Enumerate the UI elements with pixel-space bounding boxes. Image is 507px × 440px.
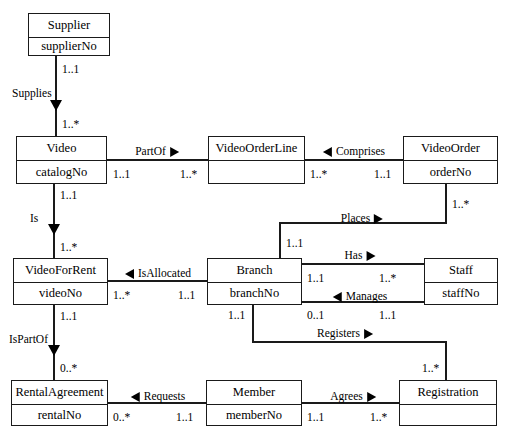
relationship-label-comprises: Comprises [323, 146, 385, 158]
relationship-label-is: Is [30, 213, 38, 225]
multiplicity-member-requests: 1..1 [176, 412, 193, 424]
entity-attribute: supplierNo [29, 38, 109, 55]
relationship-label-registers: Registers [317, 328, 373, 340]
entity-video[interactable]: Video catalogNo [16, 136, 107, 184]
entity-name: VideoForRent [14, 259, 107, 283]
relationship-label-text: Supplies [12, 88, 52, 100]
multiplicity-member-agrees: 1..1 [307, 412, 324, 424]
entity-attribute: orderNo [404, 161, 497, 183]
entity-name: VideoOrderLine [209, 137, 304, 161]
multiplicity-videoorderline-partof: 1..* [180, 169, 197, 181]
entity-attribute [400, 405, 496, 425]
multiplicity-staff-has: 1..* [379, 273, 396, 285]
entity-name: Member [207, 381, 301, 405]
triangle-left-icon [323, 147, 332, 157]
connector-registers [253, 305, 446, 380]
relationship-label-isallocated: IsAllocated [125, 268, 191, 280]
relationship-label-ispartof: IsPartOf [9, 334, 48, 346]
relationship-label-requests: Requests [131, 391, 186, 403]
relationship-label-has: Has [345, 250, 376, 262]
multiplicity-videoforrent-is: 1..* [60, 242, 77, 254]
entity-videoorderline[interactable]: VideoOrderLine [208, 136, 305, 184]
entity-member[interactable]: Member memberNo [206, 380, 302, 426]
relationship-label-text: PartOf [135, 146, 166, 158]
multiplicity-branch-registers: 1..1 [228, 310, 245, 322]
multiplicity-videoorder-places: 1..* [452, 199, 469, 211]
multiplicity-video-supplies: 1..* [62, 119, 79, 131]
entity-attribute [209, 161, 304, 183]
multiplicity-branch-places: 1..1 [286, 238, 303, 250]
entity-videoforrent[interactable]: VideoForRent videoNo [13, 258, 108, 305]
relationship-label-supplies: Supplies [12, 88, 52, 100]
entity-attribute: catalogNo [17, 161, 106, 183]
entity-name: RentalAgreement [12, 381, 107, 405]
multiplicity-branch-has: 1..1 [307, 273, 324, 285]
relationship-label-partof: PartOf [135, 146, 179, 158]
relationship-label-text: Has [345, 250, 363, 262]
relationship-label-text: IsPartOf [9, 334, 48, 346]
multiplicity-branch-isallocated: 1..1 [178, 290, 195, 302]
relationship-label-text: Registers [317, 328, 360, 340]
entity-attribute: memberNo [207, 405, 301, 425]
multiplicity-staff-manages: 1..1 [379, 310, 396, 322]
multiplicity-registration-registers: 1..* [422, 363, 439, 375]
entity-name: Staff [425, 259, 497, 283]
multiplicity-video-is: 1..1 [60, 190, 77, 202]
triangle-left-icon [333, 292, 342, 302]
triangle-right-icon [366, 251, 375, 261]
triangle-left-icon [125, 269, 134, 279]
entity-name: Video [17, 137, 106, 161]
relationship-label-text: Places [341, 213, 370, 225]
entity-attribute: videoNo [14, 283, 107, 304]
entity-attribute: rentalNo [12, 405, 107, 425]
triangle-right-icon [364, 329, 373, 339]
entity-name: Supplier [29, 14, 109, 38]
entity-attribute: staffNo [425, 283, 497, 304]
relationship-label-text: Requests [144, 391, 186, 403]
multiplicity-rentalagreement-ispartof: 0..* [60, 363, 77, 375]
entity-name: Registration [400, 381, 496, 405]
triangle-right-icon [374, 214, 383, 224]
relationship-label-text: Agrees [330, 391, 363, 403]
entity-videoorder[interactable]: VideoOrder orderNo [403, 136, 498, 184]
relationship-label-places: Places [341, 213, 383, 225]
triangle-down-icon [48, 224, 60, 235]
triangle-left-icon [131, 392, 140, 402]
multiplicity-videoorderline-comprises: 1..* [310, 169, 327, 181]
relationship-label-text: Comprises [336, 146, 385, 158]
relationship-label-text: IsAllocated [138, 268, 191, 280]
multiplicity-videoorder-comprises: 1..1 [374, 169, 391, 181]
triangle-down-icon [50, 100, 62, 111]
multiplicity-rentalagreement-requests: 0..* [113, 412, 130, 424]
entity-rentalagreement[interactable]: RentalAgreement rentalNo [11, 380, 108, 426]
relationship-label-manages: Manages [333, 291, 388, 303]
relationship-label-text: Is [30, 213, 38, 225]
multiplicity-branch-manages: 0..1 [307, 310, 324, 322]
entity-name: VideoOrder [404, 137, 497, 161]
entity-staff[interactable]: Staff staffNo [424, 258, 498, 305]
entity-supplier[interactable]: Supplier supplierNo [28, 13, 110, 56]
triangle-right-icon [170, 147, 179, 157]
multiplicity-video-partof: 1..1 [113, 169, 130, 181]
multiplicity-registration-agrees: 1..* [370, 412, 387, 424]
entity-branch[interactable]: Branch branchNo [207, 258, 302, 305]
entity-name: Branch [208, 259, 301, 283]
entity-registration[interactable]: Registration [399, 380, 497, 426]
uml-class-diagram: Supplier supplierNo Video catalogNo Vide… [0, 0, 507, 440]
multiplicity-supplier-supplies: 1..1 [62, 64, 79, 76]
entity-attribute: branchNo [208, 283, 301, 304]
relationship-label-text: Manages [346, 291, 388, 303]
triangle-down-icon [48, 345, 60, 356]
triangle-right-icon [367, 392, 376, 402]
relationship-label-agrees: Agrees [330, 391, 376, 403]
multiplicity-videoforrent-isallocated: 1..* [113, 290, 130, 302]
multiplicity-videoforrent-ispartof: 1..1 [60, 311, 77, 323]
